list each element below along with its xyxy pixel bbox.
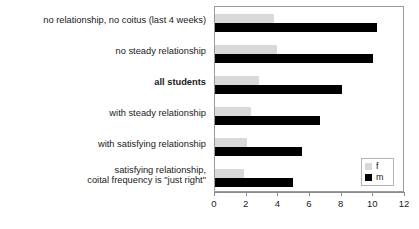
category-label-line: no relationship, no coitus (last 4 weeks… (43, 15, 206, 26)
legend-item-f: f (365, 161, 390, 172)
bar-m-0 (215, 23, 377, 32)
category-label-line: satisfying relationship, (87, 165, 206, 176)
bar-f-4 (215, 138, 247, 147)
category-label-line: all students (154, 77, 206, 88)
x-tick-6 (309, 192, 310, 196)
bar-f-5 (215, 169, 244, 178)
x-tick-0 (214, 192, 215, 196)
x-tick-2 (246, 192, 247, 196)
category-label-0: no relationship, no coitus (last 4 weeks… (43, 15, 206, 26)
category-label-4: with satisfying relationship (98, 139, 206, 150)
x-tick-10 (372, 192, 373, 196)
bar-m-3 (215, 116, 320, 125)
x-tick-8 (341, 192, 342, 196)
x-tick-label-4: 4 (267, 198, 287, 209)
x-tick-label-12: 12 (394, 198, 414, 209)
legend-label-f: f (376, 162, 379, 171)
category-label-line: with satisfying relationship (98, 139, 206, 150)
category-label-5: satisfying relationship,coital frequency… (87, 165, 206, 186)
bar-f-1 (215, 45, 277, 54)
category-axis-labels: no relationship, no coitus (last 4 weeks… (0, 6, 210, 192)
x-tick-label-0: 0 (204, 198, 224, 209)
x-tick-label-10: 10 (362, 198, 382, 209)
x-tick-label-2: 2 (236, 198, 256, 209)
legend-swatch-m-icon (365, 174, 372, 181)
category-label-line: coital frequency is "just right" (87, 175, 206, 186)
x-tick-label-6: 6 (299, 198, 319, 209)
bar-chart: no relationship, no coitus (last 4 weeks… (0, 0, 419, 229)
category-label-1: no steady relationship (116, 46, 206, 57)
bar-f-0 (215, 14, 274, 23)
bar-m-5 (215, 178, 293, 187)
bar-m-2 (215, 85, 342, 94)
x-tick-4 (277, 192, 278, 196)
category-label-3: with steady relationship (109, 108, 206, 119)
category-label-2: all students (154, 77, 206, 88)
x-tick-label-8: 8 (331, 198, 351, 209)
category-label-line: with steady relationship (109, 108, 206, 119)
chart-legend: f m (361, 158, 394, 186)
bar-m-4 (215, 147, 302, 156)
category-label-line: no steady relationship (116, 46, 206, 57)
bar-f-3 (215, 107, 251, 116)
bar-f-2 (215, 76, 259, 85)
legend-swatch-f-icon (365, 163, 372, 170)
x-tick-12 (404, 192, 405, 196)
bar-m-1 (215, 54, 373, 63)
legend-item-m: m (365, 172, 390, 183)
legend-label-m: m (376, 173, 384, 182)
